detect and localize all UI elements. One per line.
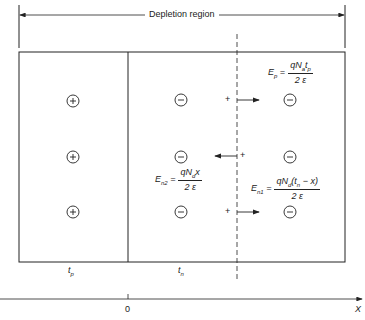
equation-en1: En1 = qNd(tn − x) 2 ε — [251, 176, 320, 201]
tp-label: tp — [68, 265, 74, 277]
tn-label: tn — [178, 265, 184, 277]
origin-label: 0 — [125, 304, 130, 314]
test-charge-middle: + — [240, 150, 245, 160]
p-charges — [67, 95, 79, 218]
test-charge-bottom: + — [225, 206, 230, 216]
test-charge-top: + — [225, 94, 230, 104]
equation-en2: En2 = qNdx 2 ε — [155, 167, 202, 192]
equation-ep: Ep = qNatp 2 ε — [268, 60, 313, 85]
x-axis-label: X — [355, 304, 361, 314]
depletion-region-title: Depletion region — [145, 9, 219, 19]
